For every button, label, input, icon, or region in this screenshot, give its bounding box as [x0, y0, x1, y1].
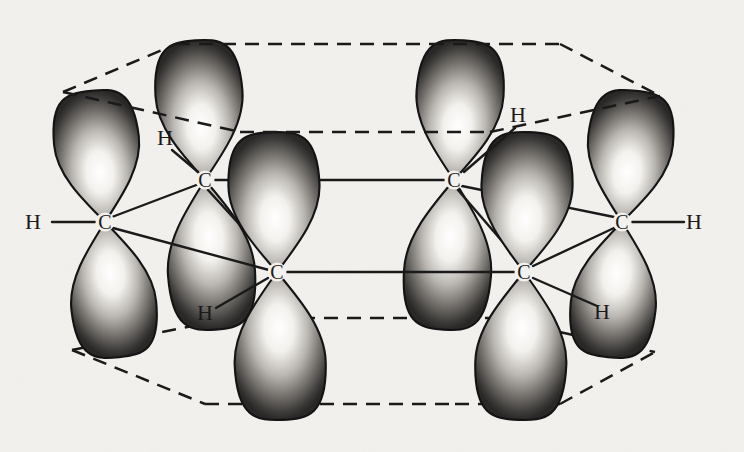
carbon-label-c6: C [615, 212, 628, 232]
benzene-orbital-figure: CCCCCCHHHHHH [0, 0, 744, 452]
carbon-label-c3: C [270, 262, 283, 282]
carbon-label-c4: C [447, 170, 460, 190]
carbon-label-c1: C [98, 212, 111, 232]
hydrogen-label-h3: H [197, 302, 213, 324]
carbon-label-c5: C [517, 262, 530, 282]
hydrogen-label-h5: H [594, 301, 610, 323]
hydrogen-label-h1: H [25, 211, 41, 233]
carbon-label-c2: C [198, 170, 211, 190]
hydrogen-label-h2: H [157, 127, 173, 149]
hydrogen-label-h4: H [510, 104, 526, 126]
hydrogen-label-h6: H [686, 211, 702, 233]
